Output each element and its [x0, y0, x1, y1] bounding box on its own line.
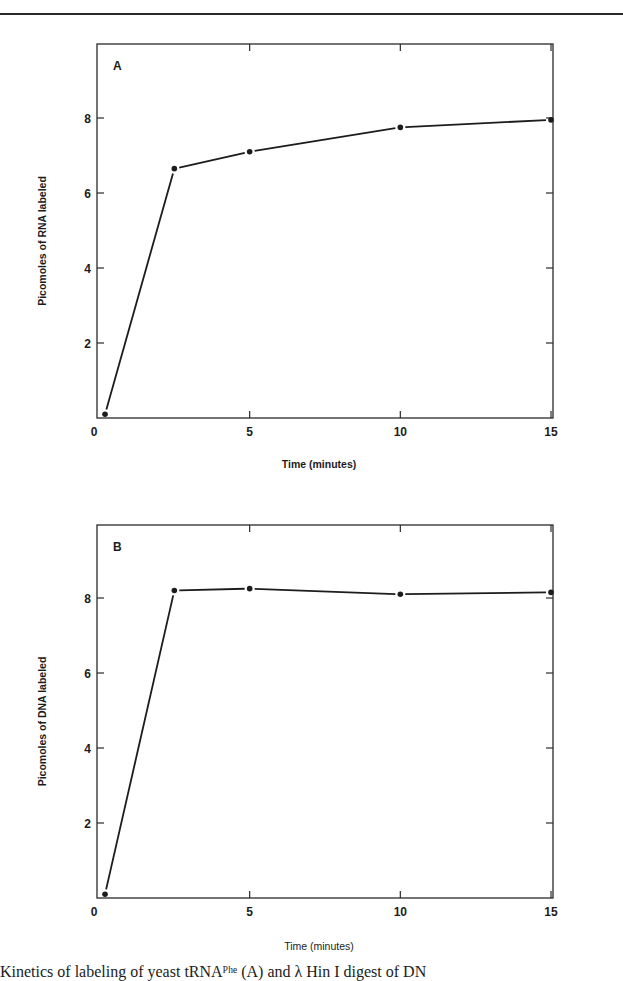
x-axis-title: Time (minutes) [282, 458, 356, 470]
data-line-segment [405, 120, 546, 127]
data-point [398, 591, 404, 597]
data-point [172, 588, 178, 594]
data-line-segment [179, 153, 245, 168]
chart-panel-a: 0510152468ATime (minutes)Picomoles of RN… [36, 44, 558, 470]
x-tick-label: 15 [544, 905, 558, 919]
data-point [247, 149, 253, 155]
data-point [102, 891, 108, 897]
data-line-segment [106, 173, 173, 409]
data-line-segment [255, 589, 396, 594]
data-point [247, 586, 253, 592]
y-tick-label: 4 [84, 742, 91, 756]
y-axis-title: Picomoles of DNA labeled [36, 657, 48, 787]
y-tick-label: 4 [84, 262, 91, 276]
data-point [102, 411, 108, 417]
y-tick-label: 8 [84, 592, 91, 606]
y-tick-label: 6 [84, 187, 91, 201]
figure: 0510152468ATime (minutes)Picomoles of RN… [0, 0, 623, 960]
panel-letter: A [113, 59, 122, 73]
y-tick-label: 8 [84, 112, 91, 126]
data-line-segment [106, 595, 173, 889]
data-point [172, 166, 178, 172]
x-tick-label: 5 [246, 905, 253, 919]
x-tick-label: 10 [394, 905, 408, 919]
y-tick-label: 2 [84, 337, 91, 351]
y-tick-label: 6 [84, 667, 91, 681]
plot-frame [97, 525, 553, 898]
plot-frame [97, 44, 553, 418]
y-axis-title: Picomoles of RNA labeled [36, 176, 48, 306]
x-tick-label: 0 [91, 425, 98, 439]
data-point [548, 117, 554, 123]
y-tick-label: 2 [84, 817, 91, 831]
panel-letter: B [113, 540, 122, 554]
x-tick-label: 5 [246, 425, 253, 439]
figure-caption: Kinetics of labeling of yeast tRNAᴾʰᵉ (A… [0, 963, 623, 981]
chart-panel-b: 0510152468BTime (minutes)Picomoles of DN… [36, 525, 558, 952]
data-point [548, 590, 554, 596]
x-tick-label: 0 [91, 905, 98, 919]
x-tick-label: 10 [394, 425, 408, 439]
data-line-segment [405, 592, 546, 594]
x-axis-title: Time (minutes) [284, 940, 354, 952]
data-line-segment [179, 589, 244, 591]
data-line-segment [255, 128, 396, 151]
x-tick-label: 15 [544, 425, 558, 439]
data-point [398, 125, 404, 131]
